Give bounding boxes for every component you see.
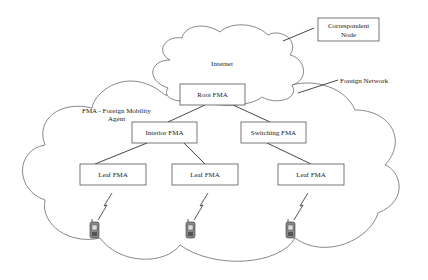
leaf-fma-node-2: Leaf FMA: [172, 164, 238, 185]
interior-fma-label: Interior FMA: [146, 129, 184, 137]
mobile-phone-icon: [90, 219, 99, 238]
leaf-fma-label-2: Leaf FMA: [190, 171, 220, 179]
mobile-phone-icon: [186, 219, 195, 238]
leaf-fma-node-1: Leaf FMA: [80, 164, 146, 185]
edge-internet-correspondent: [283, 28, 314, 41]
leaf-fma-label-3: Leaf FMA: [296, 171, 326, 179]
legend-line1: FMA - Foreign Mobility: [82, 107, 151, 115]
switching-fma-node: Switching FMA: [241, 122, 306, 143]
root-fma-node: Root FMA: [180, 84, 245, 105]
correspondent-node-label-line1: Correspondent: [328, 22, 369, 30]
switching-fma-label: Switching FMA: [251, 129, 296, 137]
foreign-network-label: Foreign Network: [340, 77, 389, 85]
correspondent-node: Correspondent Node: [318, 18, 379, 41]
mobile-phone-icon: [286, 219, 295, 238]
legend-line2: Agent: [108, 115, 125, 123]
correspondent-node-label-line2: Node: [341, 31, 356, 39]
root-fma-label: Root FMA: [197, 91, 228, 99]
internet-label: Internet: [211, 60, 233, 68]
leaf-fma-node-3: Leaf FMA: [278, 164, 344, 185]
network-diagram: Correspondent Node Internet Foreign Netw…: [0, 0, 428, 280]
interior-fma-node: Interior FMA: [132, 122, 197, 143]
leaf-fma-label-1: Leaf FMA: [98, 171, 128, 179]
